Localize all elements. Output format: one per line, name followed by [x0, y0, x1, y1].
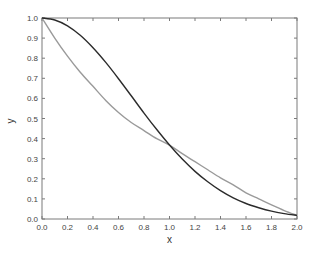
y-tick-label: 0.5 [27, 115, 39, 124]
x-tick-label: 1.8 [266, 223, 278, 232]
x-tick-label: 0.4 [87, 223, 99, 232]
x-tick-label: 1.2 [189, 223, 201, 232]
x-tick-label: 0.2 [62, 223, 74, 232]
y-axis-label: y [5, 119, 16, 124]
x-tick-label: 0.0 [36, 223, 48, 232]
y-tick-label: 0.1 [27, 195, 39, 204]
y-tick-label: 0.3 [27, 155, 39, 164]
y-tick-label: 0.9 [27, 34, 39, 43]
x-tick-label: 0.6 [113, 223, 125, 232]
x-tick-label: 0.8 [138, 223, 150, 232]
x-tick-label: 1.0 [164, 223, 176, 232]
y-tick-label: 0.2 [27, 175, 39, 184]
x-axis-label: x [167, 234, 172, 245]
x-tick-label: 2.0 [291, 223, 303, 232]
y-tick-label: 0.6 [27, 94, 39, 103]
y-tick-label: 0.8 [27, 54, 39, 63]
y-tick-label: 0.4 [27, 135, 39, 144]
x-tick-label: 1.6 [240, 223, 252, 232]
line-chart: 0.00.20.40.60.81.01.21.41.61.82.0 0.00.1… [0, 0, 315, 253]
y-tick-label: 0.7 [27, 74, 39, 83]
y-tick-label: 0.0 [27, 215, 39, 224]
x-tick-label: 1.4 [215, 223, 227, 232]
plot-area [42, 18, 297, 219]
y-tick-label: 1.0 [27, 14, 39, 23]
